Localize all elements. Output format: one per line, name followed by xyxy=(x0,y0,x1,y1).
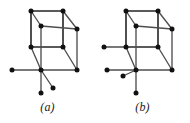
graph-edge xyxy=(63,11,77,29)
graph-edge xyxy=(136,26,172,29)
graph-vertex xyxy=(61,45,66,50)
graph-vertex xyxy=(29,45,34,50)
figure-plate: (a) (b) xyxy=(0,0,190,123)
graph-vertex xyxy=(39,91,44,96)
graph-edge xyxy=(126,47,136,70)
graph-edge xyxy=(158,11,172,29)
graph-vertex xyxy=(10,68,15,73)
cube-graph-diagram-a xyxy=(0,0,95,102)
graph-vertex xyxy=(156,9,161,14)
graph-vertex xyxy=(134,68,139,73)
graph-edge xyxy=(158,47,172,70)
graph-vertex xyxy=(39,24,44,29)
graph-vertex xyxy=(156,45,161,50)
graph-vertex xyxy=(39,68,44,73)
graph-vertex xyxy=(75,68,80,73)
cube-graph-diagram-b xyxy=(95,0,190,102)
graph-vertex xyxy=(51,86,56,91)
graph-vertex xyxy=(170,27,175,32)
graph-edge xyxy=(126,11,136,26)
graph-vertex xyxy=(121,74,126,79)
graph-edge xyxy=(63,47,77,70)
graph-edge xyxy=(31,11,41,26)
graph-vertex xyxy=(75,27,80,32)
graph-vertex xyxy=(61,9,66,14)
graph-edge xyxy=(41,70,53,88)
figure-panel-a: (a) xyxy=(0,0,95,123)
figure-caption-a: (a) xyxy=(0,100,95,114)
figure-panel-b: (b) xyxy=(95,0,190,123)
graph-vertex xyxy=(170,68,175,73)
graph-vertex xyxy=(29,9,34,14)
graph-vertex xyxy=(134,24,139,29)
figure-caption-b: (b) xyxy=(95,100,190,114)
graph-vertex xyxy=(124,45,129,50)
graph-vertex xyxy=(102,45,107,50)
graph-vertex xyxy=(105,68,110,73)
graph-vertex xyxy=(134,91,139,96)
graph-edge xyxy=(31,47,41,70)
graph-vertex xyxy=(124,9,129,14)
graph-edge xyxy=(41,26,77,29)
